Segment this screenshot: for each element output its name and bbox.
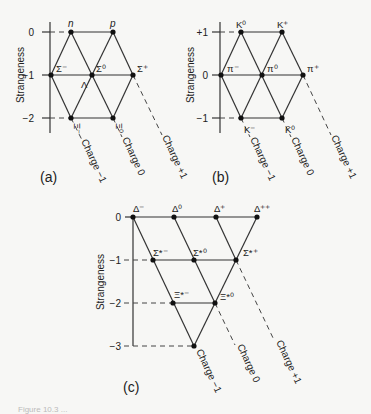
panel-c: 0 −1 −2 −3 Strangeness Δ⁻ Δ⁰ Δ⁺ Δ⁺⁺ Σ*⁻ xyxy=(95,203,304,395)
tick-minus1: −1 xyxy=(197,113,209,124)
tick-minus1: −1 xyxy=(110,255,122,266)
charge-0-label: Charge 0 xyxy=(235,342,263,384)
label-k-minus: K⁻ xyxy=(244,124,255,135)
label-delta-plus: Δ⁺ xyxy=(214,203,225,214)
label-xi-zero: Ξ⁰ xyxy=(114,123,125,133)
charge-plus1-label: Charge +1 xyxy=(329,133,359,181)
label-pi-plus: π⁺ xyxy=(307,63,319,74)
tick-minus3: −3 xyxy=(110,341,122,352)
node-delta-plusplus xyxy=(254,214,259,219)
panel-b: +1 0 −1 Strangeness K⁰ K⁺ π⁻ π⁰ π⁺ K⁻ K̄… xyxy=(185,19,359,185)
label-k-plus: K⁺ xyxy=(277,19,288,30)
node-xi-zero xyxy=(110,115,115,120)
label-sigma-star-minus: Σ*⁻ xyxy=(153,247,168,258)
eightfold-way-diagram: 0 −1 −2 Strangeness n p Σ⁻ Σ⁰ Λ Σ⁺ Ξ⁻ xyxy=(0,0,371,414)
node-xi-star-minus xyxy=(170,300,175,305)
label-delta-plusplus: Δ⁺⁺ xyxy=(254,203,270,214)
panel-label-a: (a) xyxy=(40,169,57,185)
node-xi-star-zero xyxy=(212,300,217,305)
node-sigma-star-minus xyxy=(150,257,155,262)
label-xi-minus: Ξ⁻ xyxy=(72,123,83,134)
charge-0-label: Charge 0 xyxy=(120,135,148,177)
axis-title: Strangeness xyxy=(15,47,26,103)
node-sigma-star-zero xyxy=(191,257,196,262)
node-k-zero xyxy=(238,29,243,34)
label-p: p xyxy=(109,18,116,29)
label-sigma-star-zero: Σ*⁰ xyxy=(193,247,207,258)
label-n: n xyxy=(68,18,74,29)
node-k-minus xyxy=(238,115,243,120)
label-xi-star-minus: Ξ*⁻ xyxy=(174,289,189,300)
node-pi-plus xyxy=(300,72,305,77)
charge-0-label: Charge 0 xyxy=(289,135,317,177)
node-xi-minus xyxy=(68,115,73,120)
label-sigma-zero: Σ⁰ xyxy=(96,63,106,74)
node-sigma-plus xyxy=(130,72,135,77)
tick-minus2: −2 xyxy=(23,113,35,124)
label-delta-minus: Δ⁻ xyxy=(133,203,144,214)
tick-plus1: +1 xyxy=(197,27,209,38)
charge-minus1-label: Charge −1 xyxy=(248,135,278,183)
axis-title: Strangeness xyxy=(185,47,196,103)
charge-minus1-label: Charge −1 xyxy=(79,137,109,185)
tick-0: 0 xyxy=(115,212,121,223)
label-k-zero-bar: K̄⁰ xyxy=(285,124,295,135)
node-pi-zero xyxy=(259,72,264,77)
tick-0: 0 xyxy=(202,70,208,81)
panel-a: 0 −1 −2 Strangeness n p Σ⁻ Σ⁰ Λ Σ⁺ Ξ⁻ xyxy=(15,18,190,185)
label-k-zero: K⁰ xyxy=(236,19,246,30)
label-delta-zero: Δ⁰ xyxy=(172,203,182,214)
label-pi-zero: π⁰ xyxy=(267,63,278,74)
node-n xyxy=(68,29,73,34)
charge-plus1-label: Charge +1 xyxy=(160,133,190,181)
node-delta-plus xyxy=(213,214,218,219)
charge-plus1-label: Charge +1 xyxy=(274,338,304,386)
label-pi-minus: π⁻ xyxy=(227,63,239,74)
node-sigma-star-plus xyxy=(233,257,238,262)
node-pi-minus xyxy=(218,72,223,77)
node-sigma-zero xyxy=(89,72,94,77)
label-lambda: Λ xyxy=(81,79,88,90)
node-k-zero-bar xyxy=(279,115,284,120)
label-sigma-star-plus: Σ*⁺ xyxy=(243,247,258,258)
node-delta-zero xyxy=(171,214,176,219)
label-sigma-minus: Σ⁻ xyxy=(56,63,67,74)
label-xi-star-zero: Ξ*⁰ xyxy=(220,291,234,302)
label-sigma-plus: Σ⁺ xyxy=(137,63,148,74)
figure-caption: Figure 10.3 ... xyxy=(18,405,67,414)
tick-minus2: −2 xyxy=(110,298,122,309)
node-delta-minus xyxy=(130,214,135,219)
node-omega-minus xyxy=(191,343,196,348)
node-p xyxy=(110,29,115,34)
panel-label-b: (b) xyxy=(212,169,229,185)
tick-0: 0 xyxy=(28,27,34,38)
node-k-plus xyxy=(279,29,284,34)
node-sigma-minus xyxy=(48,72,53,77)
axis-title: Strangeness xyxy=(95,254,106,310)
charge-minus1-label: Charge −1 xyxy=(194,347,224,395)
panel-label-c: (c) xyxy=(123,379,139,395)
